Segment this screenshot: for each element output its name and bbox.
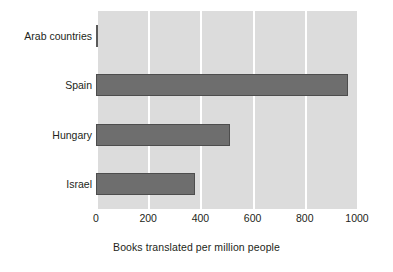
category-axis-labels: Arab countriesSpainHungaryIsrael [0, 11, 92, 209]
plot-area [96, 11, 357, 209]
x-axis-title: Books translated per million people [0, 241, 393, 253]
bar [96, 74, 348, 96]
category-label: Israel [2, 178, 92, 190]
bar-row [96, 74, 357, 96]
bar-chart: Arab countriesSpainHungaryIsrael 0200400… [0, 0, 393, 272]
x-tick-label: 600 [244, 212, 262, 225]
category-label: Spain [2, 79, 92, 91]
category-label: Hungary [2, 129, 92, 141]
bar-row [96, 25, 357, 47]
x-tick-label: 800 [296, 212, 314, 225]
x-tick-label: 400 [192, 212, 210, 225]
x-axis-tick-labels: 02004006008001000 [0, 212, 393, 226]
bar-row [96, 124, 357, 146]
x-tick-label: 200 [139, 212, 157, 225]
bar [96, 173, 195, 195]
bar-row [96, 173, 357, 195]
bar [96, 124, 230, 146]
x-tick-label: 0 [93, 212, 99, 225]
bar [96, 25, 98, 47]
x-tick-label: 1000 [345, 212, 368, 225]
category-label: Arab countries [2, 30, 92, 42]
